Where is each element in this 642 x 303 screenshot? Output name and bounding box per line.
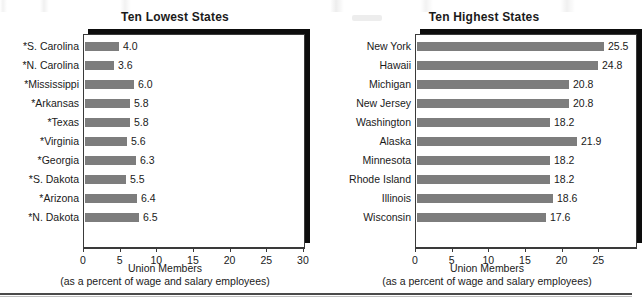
bar [417, 213, 546, 222]
chart-title-left: Ten Lowest States [0, 10, 316, 24]
bar-value-label: 6.5 [143, 211, 158, 224]
x-axis-tick [415, 248, 416, 252]
bar-value-label: 3.6 [118, 59, 133, 72]
bar-row: Rhode Island18.2 [316, 173, 632, 190]
x-axis-tick [452, 248, 453, 252]
x-axis-tick [525, 248, 526, 252]
x-axis-tick [120, 248, 121, 252]
x-axis-tick [266, 248, 267, 252]
bar [85, 213, 139, 222]
bar-category-label: New York [367, 40, 411, 53]
bar-row: *S. Carolina4.0 [0, 40, 305, 57]
bar [417, 175, 550, 184]
bar-row: *Arkansas5.8 [0, 97, 305, 114]
bar-category-label: *S. Dakota [29, 173, 79, 186]
bar [85, 80, 134, 89]
page-bottom-rule [0, 293, 632, 295]
bar-category-label: *N. Carolina [22, 59, 79, 72]
x-axis-tick-label: 5 [449, 254, 455, 266]
bar-value-label: 24.8 [602, 59, 622, 72]
bar-category-label: *Mississippi [24, 78, 79, 91]
bar-value-label: 25.5 [608, 40, 628, 53]
axis-caption-line2-right: (as a percent of wage and salary employe… [342, 275, 632, 288]
bar [417, 42, 604, 51]
x-axis-tick [303, 248, 304, 252]
bar-row: Wisconsin17.6 [316, 211, 632, 228]
bar-category-label: *Arkansas [31, 97, 79, 110]
bar-row: New Jersey20.8 [316, 97, 632, 114]
bar-category-label: *Arizona [39, 192, 79, 205]
bar-row: Hawaii24.8 [316, 59, 632, 76]
bar-row: Illinois18.6 [316, 192, 632, 209]
bar-value-label: 5.5 [130, 173, 145, 186]
bar-category-label: *Texas [47, 116, 79, 129]
bar-row: Alaska21.9 [316, 135, 632, 152]
x-axis-tick [488, 248, 489, 252]
bar-category-label: Rhode Island [349, 173, 411, 186]
bar-value-label: 6.4 [141, 192, 156, 205]
bar-category-label: *N. Dakota [28, 211, 79, 224]
bar-row: *S. Dakota5.5 [0, 173, 305, 190]
bar-value-label: 5.6 [131, 135, 146, 148]
x-axis-tick-label: 30 [297, 254, 309, 266]
bar-value-label: 5.8 [134, 116, 149, 129]
bar [417, 156, 550, 165]
bar [85, 137, 127, 146]
bar-row: *Mississippi6.0 [0, 78, 305, 95]
bar [85, 99, 130, 108]
x-axis-tick-label: 5 [117, 254, 123, 266]
bar [417, 118, 550, 127]
x-axis-tick [598, 248, 599, 252]
bar-category-label: *S. Carolina [23, 40, 79, 53]
bar [85, 42, 119, 51]
bar [417, 99, 569, 108]
bar-category-label: Michigan [369, 78, 411, 91]
chart-ten-lowest-states: Ten Lowest States *S. Carolina4.0*N. Car… [0, 0, 316, 303]
bar-category-label: *Virginia [40, 135, 79, 148]
bar-value-label: 17.6 [550, 211, 570, 224]
bar-category-label: Wisconsin [363, 211, 411, 224]
bar-row: Minnesota18.2 [316, 154, 632, 171]
bar [85, 118, 130, 127]
x-axis-tick-label: 10 [482, 254, 494, 266]
x-axis-tick [83, 248, 84, 252]
x-axis-tick [156, 248, 157, 252]
bar-value-label: 20.8 [573, 78, 593, 91]
x-axis-tick [562, 248, 563, 252]
x-axis-line-left [83, 248, 305, 249]
x-axis-tick-label: 10 [150, 254, 162, 266]
bar-row: *N. Carolina3.6 [0, 59, 305, 76]
bar [85, 156, 136, 165]
bar [85, 61, 114, 70]
bar-row: *Virginia5.6 [0, 135, 305, 152]
x-axis-tick [193, 248, 194, 252]
x-axis-tick-label: 20 [224, 254, 236, 266]
bar-value-label: 6.0 [138, 78, 153, 91]
bar-value-label: 5.8 [134, 97, 149, 110]
x-axis-tick-label: 15 [519, 254, 531, 266]
bar-value-label: 4.0 [123, 40, 138, 53]
x-axis-tick-label: 20 [556, 254, 568, 266]
bar-category-label: Minnesota [363, 154, 411, 167]
bar [417, 137, 577, 146]
bar-category-label: Hawaii [379, 59, 411, 72]
bar [417, 194, 553, 203]
bar-category-label: Washington [356, 116, 411, 129]
page-bottom-rule-shadow [0, 296, 632, 297]
bar-row: New York25.5 [316, 40, 632, 57]
bar-row: *Arizona6.4 [0, 192, 305, 209]
bar-row: Washington18.2 [316, 116, 632, 133]
x-axis-tick-label: 15 [187, 254, 199, 266]
bar [85, 175, 126, 184]
bar-value-label: 18.2 [554, 173, 574, 186]
bar-value-label: 21.9 [581, 135, 601, 148]
chart-ten-highest-states: Ten Highest States New York25.5Hawaii24.… [316, 0, 632, 303]
bar-value-label: 18.6 [557, 192, 577, 205]
x-axis-tick-label: 0 [80, 254, 86, 266]
bar-row: *Texas5.8 [0, 116, 305, 133]
bar-value-label: 6.3 [140, 154, 155, 167]
bar-row: *N. Dakota6.5 [0, 211, 305, 228]
bar-row: Michigan20.8 [316, 78, 632, 95]
axis-caption-line2-left: (as a percent of wage and salary employe… [20, 275, 310, 288]
